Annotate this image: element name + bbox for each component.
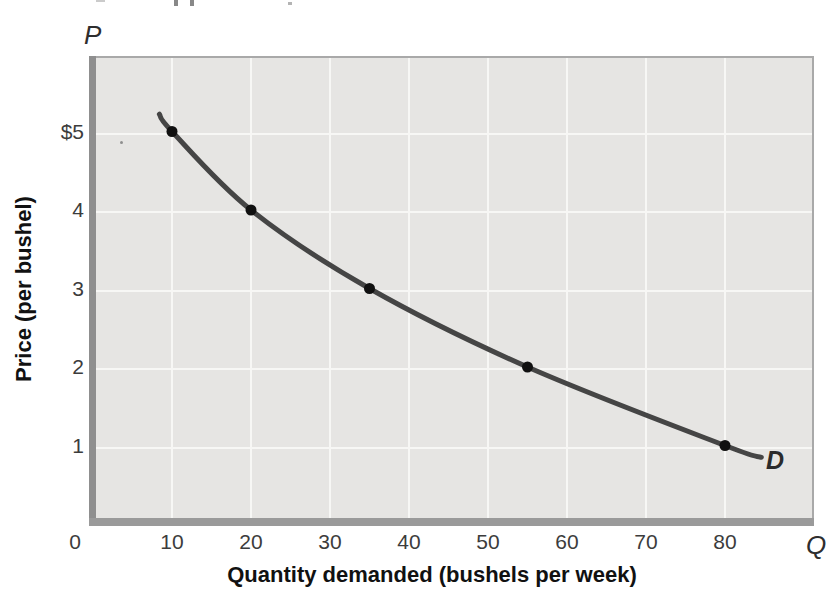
y-axis-line	[89, 56, 96, 526]
y-tick-label: 2	[30, 354, 84, 380]
gridline-vertical	[250, 58, 252, 518]
origin-label: 0	[69, 529, 81, 555]
cropped-text-remnant	[288, 2, 292, 5]
x-tick-label: 10	[160, 529, 183, 555]
x-axis-line	[89, 518, 814, 526]
gridline-vertical	[566, 58, 568, 518]
x-axis-title: Quantity demanded (bushels per week)	[227, 562, 637, 588]
y-tick-label: $5	[30, 119, 84, 145]
cropped-text-remnant	[174, 0, 178, 6]
gridline-vertical	[487, 58, 489, 518]
gridline-vertical	[408, 58, 410, 518]
gridline-vertical	[724, 58, 726, 518]
q-axis-symbol: Q	[806, 530, 826, 561]
demand-curve-label: D	[766, 446, 784, 475]
x-tick-label: 50	[476, 529, 499, 555]
x-tick-label: 20	[239, 529, 262, 555]
y-tick-label: 1	[30, 433, 84, 459]
plot-area	[90, 56, 814, 518]
x-tick-label: 30	[318, 529, 341, 555]
x-tick-label: 40	[397, 529, 420, 555]
gridline-vertical	[329, 58, 331, 518]
x-tick-label: 80	[713, 529, 736, 555]
cropped-text-remnant	[96, 0, 105, 2]
x-tick-label: 60	[555, 529, 578, 555]
y-tick-label: 4	[30, 197, 84, 223]
scan-speckle	[120, 141, 123, 144]
gridline-vertical	[645, 58, 647, 518]
gridline-horizontal	[90, 290, 812, 292]
p-axis-symbol: P	[84, 20, 101, 51]
figure-canvas: P Q D Price (per bushel) Quantity demand…	[0, 0, 836, 598]
gridline-horizontal	[90, 133, 812, 135]
y-tick-label: 3	[30, 276, 84, 302]
gridline-vertical	[171, 58, 173, 518]
gridline-horizontal	[90, 447, 812, 449]
x-tick-label: 70	[634, 529, 657, 555]
cropped-text-remnant	[190, 0, 194, 6]
gridline-horizontal	[90, 211, 812, 213]
gridline-horizontal	[90, 368, 812, 370]
